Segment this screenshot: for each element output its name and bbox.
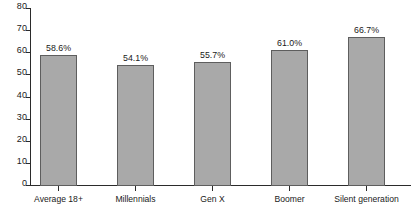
y-axis-line xyxy=(30,8,31,185)
y-axis-tick-mark-20 xyxy=(26,141,30,142)
bar-value-gen-x: 55.7% xyxy=(200,50,225,60)
y-axis-tick-label-0: 0 xyxy=(22,179,27,188)
x-axis-label-gen-x: Gen X xyxy=(200,194,224,204)
y-axis-tick-mark-40 xyxy=(26,97,30,98)
bar-silent-generation[interactable] xyxy=(348,37,385,186)
y-axis-tick-label-40: 40 xyxy=(17,91,27,100)
bar-average-18-plus[interactable] xyxy=(40,55,77,186)
bar-millennials[interactable] xyxy=(117,65,154,186)
x-axis-label-average-18-plus: Average 18+ xyxy=(34,194,83,204)
x-axis-tick-mark-silent-generation xyxy=(366,186,367,191)
y-axis-tick-label-30: 30 xyxy=(17,113,27,122)
y-axis-tick-label-50: 50 xyxy=(17,68,27,77)
y-axis-tick-mark-70 xyxy=(26,30,30,31)
bar-value-average-18-plus: 58.6% xyxy=(46,43,71,53)
y-axis-tick-label-20: 20 xyxy=(17,135,27,144)
bar-gen-x[interactable] xyxy=(194,62,231,186)
x-axis-label-boomer: Boomer xyxy=(274,194,304,204)
x-axis-tick-mark-average-18-plus xyxy=(58,186,59,191)
bar-chart: 0 10 20 30 40 50 60 70 80 58.6% Average … xyxy=(0,0,418,209)
bar-value-millennials: 54.1% xyxy=(123,53,148,63)
y-axis-tick-mark-60 xyxy=(26,52,30,53)
y-axis-tick-label-70: 70 xyxy=(17,24,27,33)
bar-value-boomer: 61.0% xyxy=(277,38,302,48)
x-axis-label-silent-generation: Silent generation xyxy=(334,194,399,204)
y-axis-tick-label-10: 10 xyxy=(17,157,27,166)
y-axis-tick-mark-50 xyxy=(26,74,30,75)
y-axis-tick-label-80: 80 xyxy=(17,2,27,11)
y-axis-tick-label-60: 60 xyxy=(17,46,27,55)
x-axis-label-millennials: Millennials xyxy=(115,194,155,204)
x-axis-tick-mark-boomer xyxy=(289,186,290,191)
bar-value-silent-generation: 66.7% xyxy=(354,25,379,35)
y-axis-tick-mark-10 xyxy=(26,163,30,164)
x-axis-tick-mark-millennials xyxy=(135,186,136,191)
bar-boomer[interactable] xyxy=(271,50,308,186)
x-axis-tick-mark-gen-x xyxy=(212,186,213,191)
y-axis-tick-mark-30 xyxy=(26,119,30,120)
y-axis-tick-mark-80 xyxy=(26,8,30,9)
